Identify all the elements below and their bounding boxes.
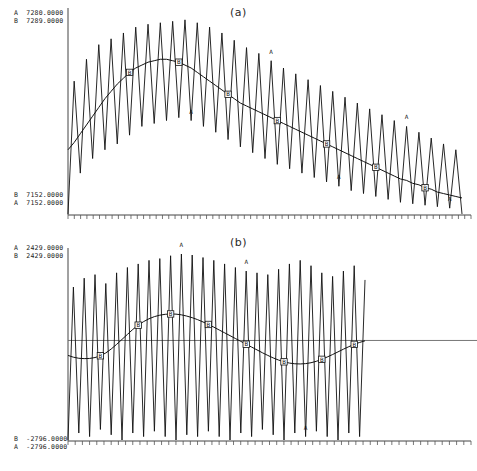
series-a-glyph: A <box>244 258 248 265</box>
series-b-marker-glyph: B <box>177 58 181 65</box>
series-b-marker-glyph: B <box>169 310 173 317</box>
series-b-marker-glyph: B <box>423 184 427 191</box>
series-line-A <box>68 20 462 214</box>
chart-panel-b: (b) A 2429.0000 B 2429.0000 B -2796.0000… <box>0 232 477 471</box>
series-a-glyph: A <box>189 108 193 115</box>
series-a-glyph: A <box>448 195 452 202</box>
series-line-A <box>68 254 365 440</box>
series-b-marker-glyph: B <box>374 163 378 170</box>
series-a-glyph: A <box>337 173 341 180</box>
series-b-marker-glyph: B <box>99 352 103 359</box>
series-b-marker-glyph: B <box>128 69 132 76</box>
chart-panel-a: (a) A 7280.0000 B 7289.0000 B 7152.0000 … <box>0 0 477 236</box>
series-a-glyph: A <box>304 424 308 431</box>
series-b-marker-glyph: B <box>282 358 286 365</box>
series-a-glyph: A <box>405 113 409 120</box>
series-b-marker-glyph: B <box>207 321 211 328</box>
series-b-marker-glyph: B <box>276 117 280 124</box>
series-b-marker-glyph: B <box>320 356 324 363</box>
series-b-marker-glyph: B <box>352 341 356 348</box>
series-b-marker-glyph: B <box>136 321 140 328</box>
series-b-marker-glyph: B <box>244 340 248 347</box>
panel-a-plot: BBBBBBBAAAAA <box>0 0 477 236</box>
panel-b-plot: BBBBBBBBAAA <box>0 232 477 471</box>
series-a-glyph: A <box>180 241 184 248</box>
series-b-marker-glyph: B <box>325 140 329 147</box>
series-b-marker-glyph: B <box>226 90 230 97</box>
series-a-glyph: A <box>269 48 273 55</box>
